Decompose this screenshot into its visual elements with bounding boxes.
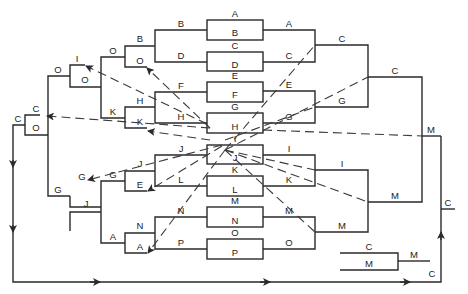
left-r2-label: O — [136, 55, 143, 66]
champion-label: C — [445, 197, 452, 208]
final-label: M — [427, 124, 435, 135]
left-r4-label: O — [32, 122, 39, 133]
left-r4-label: J — [84, 198, 89, 209]
right-r1-label: I — [288, 143, 291, 154]
right-r1-label: O — [285, 237, 292, 248]
left-r2-label: K — [137, 116, 144, 127]
box-label: F — [232, 89, 238, 100]
box-label: G — [231, 101, 238, 112]
right-r1-label: K — [286, 174, 293, 185]
right-r2-label: I — [341, 158, 344, 169]
box-label: N — [232, 215, 239, 226]
left-r1-label: J — [179, 143, 184, 154]
box-label: L — [232, 184, 237, 195]
left-round4: O G G J C O — [25, 64, 101, 209]
left-r2-label: H — [137, 95, 144, 106]
left-r1-label: P — [178, 237, 184, 248]
left-r2-label: B — [137, 33, 143, 44]
left-round3: O K G A I O — [70, 45, 125, 243]
right-round3: C M M C — [368, 65, 455, 209]
left-r3-label: O — [109, 45, 116, 56]
right-round1: A C E G I K M O — [263, 18, 315, 249]
right-r3-label: M — [391, 190, 399, 201]
box-label: C — [232, 40, 239, 51]
left-r1-label: L — [178, 174, 183, 185]
left-r4-label: C — [33, 103, 40, 114]
box-label: A — [232, 8, 239, 19]
box-label: H — [232, 121, 239, 132]
left-r1-label: B — [178, 18, 184, 29]
left-r1-label: H — [178, 111, 185, 122]
bracket-diagram: A B C D E F G H I J K L M N O P B D F H … — [0, 0, 468, 294]
left-r3-label: A — [110, 231, 117, 242]
left-r3-label: K — [110, 106, 117, 117]
bottom-c-label: C — [429, 268, 436, 279]
right-r1-label: C — [286, 50, 293, 61]
box-label: B — [232, 27, 238, 38]
box-label: O — [231, 227, 238, 238]
left-round2: B O H K J E N A — [125, 33, 155, 253]
legend: C M M — [340, 241, 430, 270]
box-label: P — [232, 247, 238, 258]
left-r2-label: E — [137, 179, 143, 190]
left-r3-label: O — [81, 74, 88, 85]
left-r2-label: N — [137, 220, 144, 231]
left-r1-label: D — [178, 50, 185, 61]
left-r2-label: A — [137, 241, 144, 252]
box-label: E — [232, 70, 238, 81]
left-r1-label: F — [178, 80, 184, 91]
legend-top-label: C — [366, 241, 373, 252]
right-r2-label: C — [339, 33, 346, 44]
left-r1-label: N — [178, 205, 185, 216]
left-r5-label: C — [15, 113, 22, 124]
legend-result-label: M — [410, 249, 418, 260]
left-r4-label: O — [54, 64, 61, 75]
legend-bottom-label: M — [365, 258, 373, 269]
box-label: D — [232, 59, 239, 70]
right-r1-label: A — [286, 18, 293, 29]
right-r3-label: C — [392, 65, 399, 76]
center-boxes: A B C D E F G H I J K L M N O P — [207, 8, 263, 259]
left-r3-label: I — [76, 53, 79, 64]
right-r1-label: E — [286, 79, 292, 90]
right-r2-label: M — [338, 220, 346, 231]
left-r4-label: G — [78, 171, 85, 182]
box-label: M — [231, 195, 239, 206]
right-r2-label: G — [338, 95, 345, 106]
left-r4-label: G — [54, 184, 61, 195]
box-label: K — [232, 164, 239, 175]
